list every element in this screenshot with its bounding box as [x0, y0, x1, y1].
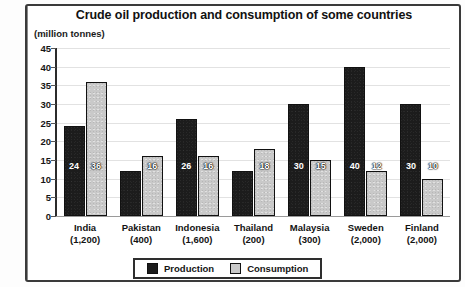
x-axis-label-value: (300)	[282, 234, 338, 246]
y-axis-tick-mark	[51, 104, 56, 105]
x-axis-label: Sweden(2,000)	[338, 222, 394, 246]
x-axis-label-value: (400)	[113, 234, 169, 246]
y-axis-tick-label: 25	[40, 117, 51, 128]
legend-swatch-consumption-icon	[230, 263, 241, 274]
x-axis-label-value: (2,000)	[394, 234, 450, 246]
y-axis-tick-label: 45	[40, 43, 51, 54]
y-axis-tick-mark	[51, 197, 56, 198]
x-axis-label: India(1,200)	[57, 222, 113, 246]
y-axis-unit-label: (million tonnes)	[34, 28, 105, 39]
x-axis-label: Malaysia(300)	[282, 222, 338, 246]
x-axis-label-country: Sweden	[348, 222, 384, 233]
y-axis-tick-mark	[51, 141, 56, 142]
bar-consumption: 36	[86, 82, 107, 216]
bar-consumption: 15	[310, 160, 331, 216]
bar-group: 1218	[232, 48, 275, 216]
x-axis-label: Thailand(200)	[225, 222, 281, 246]
x-axis-label-value: (2,000)	[338, 234, 394, 246]
y-axis-tick-mark	[51, 48, 56, 49]
bar-value-label: 10	[423, 162, 442, 171]
y-axis-tick-label: 30	[40, 99, 51, 110]
x-axis-label-country: Malaysia	[290, 222, 330, 233]
bar-group: 1216	[120, 48, 163, 216]
bar-value-label: 26	[177, 162, 196, 171]
x-axis-label: Pakistan(400)	[113, 222, 169, 246]
y-axis-tick-label: 35	[40, 80, 51, 91]
bar-group: 4012	[344, 48, 387, 216]
y-axis-tick-mark	[51, 216, 56, 217]
legend-item-consumption: Consumption	[230, 263, 308, 274]
y-axis-tick-mark	[51, 160, 56, 161]
y-axis-tick-mark	[51, 179, 56, 180]
chart-legend: Production Consumption	[133, 258, 322, 279]
bar-group: 2436	[64, 48, 107, 216]
y-axis-tick-mark	[51, 123, 56, 124]
bar-value-label: 12	[367, 162, 386, 171]
bar-value-label: 40	[345, 162, 364, 171]
bar-value-label: 30	[289, 162, 308, 171]
y-axis-line	[55, 48, 57, 216]
y-axis-tick-label: 40	[40, 61, 51, 72]
bar-production: 12	[232, 171, 253, 216]
x-axis-label: Indonesia(1,600)	[169, 222, 225, 246]
bar-value-label: 36	[87, 162, 106, 171]
bar-consumption: 16	[198, 156, 219, 216]
bar-value-label: 15	[311, 162, 330, 171]
bar-production: 12	[120, 171, 141, 216]
bar-consumption: 10	[422, 179, 443, 216]
bar-group: 3010	[400, 48, 443, 216]
x-axis-label-country: Finland	[405, 222, 439, 233]
bar-production: 30	[400, 104, 421, 216]
y-axis-tick-label: 10	[40, 173, 51, 184]
bar-value-label: 30	[401, 162, 420, 171]
bar-group: 2616	[176, 48, 219, 216]
bar-production: 26	[176, 119, 197, 216]
y-axis-tick-label: 15	[40, 155, 51, 166]
x-axis-label-value: (200)	[225, 234, 281, 246]
x-axis-label-country: Thailand	[234, 222, 273, 233]
y-axis-tick-mark	[51, 85, 56, 86]
legend-item-production: Production	[147, 263, 214, 274]
bar-value-label: 12	[233, 162, 252, 171]
bar-production: 40	[344, 67, 365, 216]
bar-consumption: 16	[142, 156, 163, 216]
x-axis-label-country: Indonesia	[175, 222, 219, 233]
bar-group: 3015	[288, 48, 331, 216]
bar-production: 30	[288, 104, 309, 216]
legend-swatch-production-icon	[147, 263, 158, 274]
x-axis-line	[55, 216, 450, 217]
bar-value-label: 16	[199, 162, 218, 171]
bar-value-label: 12	[121, 162, 140, 171]
plot-area: 454035302520151050 243612162616121830154…	[57, 48, 450, 216]
y-axis-tick-mark	[51, 67, 56, 68]
bar-value-label: 16	[143, 162, 162, 171]
chart-figure: Crude oil production and consumption of …	[0, 0, 465, 287]
y-axis-tick-label: 20	[40, 136, 51, 147]
bar-value-label: 18	[255, 162, 274, 171]
bar-consumption: 18	[254, 149, 275, 216]
x-axis-label-value: (1,200)	[57, 234, 113, 246]
x-axis-label: Finland(2,000)	[394, 222, 450, 246]
bar-production: 24	[64, 126, 85, 216]
legend-label-consumption: Consumption	[247, 263, 308, 274]
x-axis-label-country: Pakistan	[122, 222, 161, 233]
bar-consumption: 12	[366, 171, 387, 216]
legend-label-production: Production	[164, 263, 214, 274]
chart-title: Crude oil production and consumption of …	[30, 8, 458, 22]
bar-value-label: 24	[65, 162, 84, 171]
x-axis-label-value: (1,600)	[169, 234, 225, 246]
x-axis-label-country: India	[74, 222, 96, 233]
